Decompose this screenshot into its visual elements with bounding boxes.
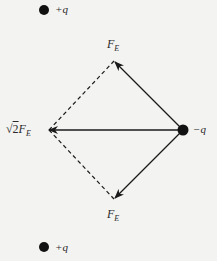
label-charge-bottom: +q xyxy=(55,242,68,253)
label-force-up: FE xyxy=(107,38,119,50)
charge-negative-center xyxy=(178,125,189,136)
label-charge-center: −q xyxy=(193,124,206,135)
force-vector-up xyxy=(115,62,183,130)
dashed-line-lower xyxy=(49,130,114,199)
charge-positive-bottom xyxy=(39,242,49,252)
force-vector-down xyxy=(115,130,183,198)
label-net-force: √2FE xyxy=(6,123,31,135)
dashed-line-upper xyxy=(49,61,114,130)
label-charge-top: +q xyxy=(55,4,68,15)
label-force-down: FE xyxy=(107,208,119,220)
charge-positive-top xyxy=(39,5,49,15)
